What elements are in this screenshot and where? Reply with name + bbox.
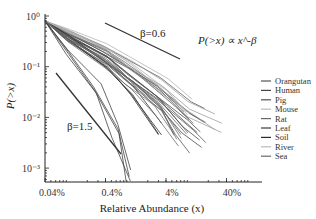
- x-tick-label-2: 4%: [165, 187, 178, 198]
- reference-line-beta-1.5: [56, 73, 121, 154]
- beta-1.5-label: β=1.5: [67, 120, 93, 132]
- abundance-distribution-chart: β=0.6 β=1.5 P(>x) ∝ x^-β 10⁰ 10⁻¹ 10⁻² 1…: [0, 0, 316, 219]
- y-tick-label-2: 10⁻²: [22, 112, 40, 123]
- x-tick-label-3: 40%: [223, 187, 241, 198]
- series-line-leaf: [45, 21, 129, 177]
- x-tick-label-1: 0.4%: [102, 187, 123, 198]
- y-tick-label-0: 10⁰: [26, 11, 40, 22]
- power-law-formula: P(>x) ∝ x^-β: [197, 34, 257, 47]
- y-tick-label-3: 10⁻³: [22, 163, 40, 174]
- legend: OrangutanHumanPigMouseRatLeafSoilRiverSe…: [261, 76, 312, 161]
- y-axis-title: P(>x): [4, 82, 17, 110]
- x-tick-label-0: 0.04%: [39, 187, 65, 198]
- data-series-layer: [45, 21, 222, 181]
- series-line-leaf: [45, 21, 130, 181]
- x-axis-title: Relative Abundance (x): [100, 202, 205, 215]
- y-tick-label-1: 10⁻¹: [22, 61, 40, 72]
- beta-0.6-label: β=0.6: [140, 27, 166, 39]
- legend-label-sea: Sea: [275, 151, 288, 161]
